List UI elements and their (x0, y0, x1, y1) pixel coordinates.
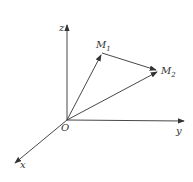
z-axis-label: z (58, 22, 65, 33)
y-axis-label: y (175, 125, 182, 136)
vector-OM2 (67, 72, 157, 120)
vector-OM1 (67, 55, 101, 120)
x-axis-label: x (20, 159, 26, 170)
origin-label: O (61, 122, 69, 133)
vector-M1M2 (102, 53, 156, 70)
x-axis (15, 120, 67, 163)
y-axis (67, 120, 184, 121)
coordinate-diagram: z y x O M1 M2 (0, 0, 193, 182)
point-M2-label: M2 (160, 65, 176, 79)
point-M1-label: M1 (95, 39, 111, 53)
